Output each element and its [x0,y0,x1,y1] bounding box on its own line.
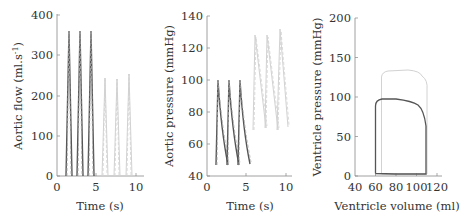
series-baseline-pv-loop [376,99,427,174]
y-axis-label: Ventricle pressure (mmHg) [310,18,324,178]
y-tick: 400 [31,8,53,22]
y-tick: 120 [181,41,203,55]
series-modified-pressure [253,29,289,130]
y-axis-label: Aortic flow (ml.s-1) [11,42,25,151]
y-axis-label: Aortic pressure (mmHg) [162,25,176,168]
y-tick: 100 [181,73,203,87]
x-axis-label: Time (s) [76,199,124,213]
series-modified-pv-loop [382,70,428,174]
series-baseline-flow [66,31,94,176]
x-tick: 120 [426,180,448,194]
x-tick: 0 [203,180,210,194]
x-tick: 80 [389,180,404,194]
series-modified-flow [102,74,132,176]
x-tick: 10 [129,180,144,194]
chart-pv-loop: 0 50 100 150 200 40 60 80 100 120 Ventri… [310,11,460,213]
y-tick: 300 [31,48,53,62]
x-tick: 0 [53,180,60,194]
x-tick: 40 [348,180,363,194]
y-tick: 140 [181,9,203,23]
x-tick: 100 [406,180,428,194]
y-tick: 100 [329,90,351,104]
x-axis-label: Ventricle volume (ml) [333,199,459,213]
x-tick: 60 [368,180,383,194]
y-tick: 50 [336,130,351,144]
y-tick: 150 [329,51,351,65]
y-tick: 100 [31,129,53,143]
x-axis-label: Time (s) [226,199,274,213]
x-tick: 5 [92,180,99,194]
y-tick: 200 [329,11,351,25]
y-tick: 60 [188,137,203,151]
x-tick: 5 [242,180,249,194]
y-tick: 80 [188,105,203,119]
figure: 0 100 200 300 400 0 5 10 Time (s) Aortic… [0,0,466,224]
x-tick: 10 [279,180,294,194]
chart-aortic-pressure: 40 60 80 100 120 140 0 5 10 Time (s) Aor… [162,9,293,213]
y-tick: 40 [188,169,203,183]
series-baseline-pressure [216,80,251,165]
chart-aortic-flow: 0 100 200 300 400 0 5 10 Time (s) Aortic… [11,8,144,213]
y-tick: 0 [46,169,53,183]
y-tick: 200 [31,89,53,103]
